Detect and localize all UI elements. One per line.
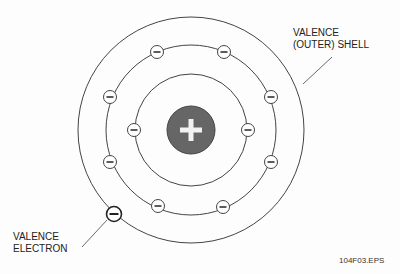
electron — [265, 91, 278, 104]
valence-electron — [107, 207, 122, 222]
electron — [152, 200, 165, 213]
minus-icon — [154, 51, 161, 53]
electron — [217, 201, 230, 214]
electron — [218, 46, 231, 59]
minus-icon — [110, 213, 119, 215]
valence-shell-label-line2: (OUTER) SHELL — [293, 39, 370, 50]
electron — [242, 124, 255, 137]
valence-shell-leader-line — [303, 57, 332, 84]
valence-shell-label-line1: VALENCE — [293, 27, 339, 38]
electron — [265, 156, 278, 169]
minus-icon — [107, 96, 114, 98]
nucleus — [167, 106, 215, 154]
minus-icon — [131, 129, 138, 131]
atom-diagram: VALENCE (OUTER) SHELL VALENCE ELECTRON 1… — [0, 0, 400, 274]
electron — [104, 156, 117, 169]
minus-icon — [155, 205, 162, 207]
minus-icon — [268, 161, 275, 163]
minus-icon — [107, 161, 114, 163]
electron — [151, 46, 164, 59]
electron — [104, 91, 117, 104]
valence-electron-label-line1: VALENCE — [13, 231, 59, 242]
minus-icon — [221, 51, 228, 53]
minus-icon — [220, 206, 227, 208]
figure-id-label: 104F03.EPS — [339, 256, 384, 265]
minus-icon — [245, 129, 252, 131]
valence-electron-leader-line — [82, 220, 107, 247]
minus-icon — [268, 96, 275, 98]
electron — [128, 124, 141, 137]
valence-electron-label-line2: ELECTRON — [13, 243, 67, 254]
